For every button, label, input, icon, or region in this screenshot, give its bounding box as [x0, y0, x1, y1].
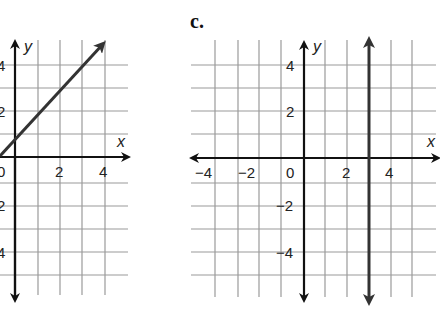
tick-label: 2 [0, 197, 5, 214]
tick-label: −2 [238, 164, 255, 181]
tick-label: 4 [385, 164, 393, 181]
tick-label: 0 [286, 164, 294, 181]
graph-panel-b: y x 0 2 4 4 2 2 4 [0, 38, 128, 300]
grid-c [191, 40, 436, 297]
x-axis-label-b: x [116, 133, 126, 150]
tick-label: 2 [342, 164, 350, 181]
tick-label: −4 [195, 164, 212, 181]
x-axis-label-c: x [426, 133, 436, 150]
tick-label: 4 [99, 163, 107, 180]
tick-label: 4 [0, 244, 5, 261]
tick-label: 2 [286, 103, 294, 120]
graphs-canvas: y x 0 2 4 4 2 2 4 c. [0, 0, 440, 309]
graph-panel-c: c. y x −4 −2 0 2 [190, 10, 438, 302]
panel-label-c: c. [190, 10, 204, 32]
tick-label: −4 [276, 244, 293, 261]
tick-label: 4 [0, 57, 5, 74]
grid-b [0, 40, 128, 295]
tick-label: −2 [276, 197, 293, 214]
tick-label: 2 [55, 163, 63, 180]
tick-label: 0 [0, 163, 5, 180]
tick-label: 2 [0, 103, 5, 120]
y-axis-label-b: y [23, 38, 33, 55]
y-axis-label-c: y [312, 38, 322, 55]
tick-label: 4 [286, 57, 294, 74]
